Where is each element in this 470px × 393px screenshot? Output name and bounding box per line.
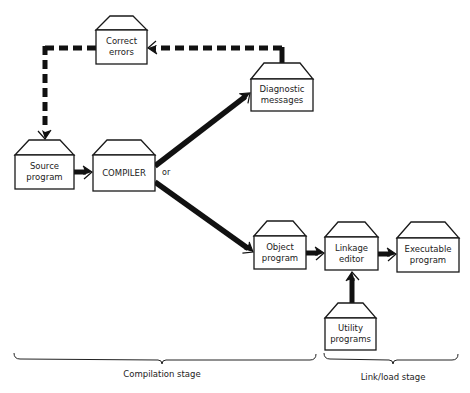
node-label-line: Executable bbox=[405, 244, 452, 255]
compilation-diagram bbox=[0, 0, 470, 393]
node-label-line: editor bbox=[339, 254, 364, 265]
node-label-line: program bbox=[262, 253, 298, 264]
flow-arrow bbox=[155, 182, 248, 249]
node-label-line: Object bbox=[266, 242, 294, 253]
node-label-line: Linkage bbox=[335, 243, 368, 254]
node-roof bbox=[325, 303, 376, 318]
node-label-line: errors bbox=[109, 47, 134, 58]
node-label-utility: Utilityprograms bbox=[325, 318, 376, 350]
nodes bbox=[15, 16, 459, 350]
node-roof bbox=[93, 140, 155, 155]
node-label-linkage: Linkageeditor bbox=[325, 237, 378, 270]
node-roof bbox=[397, 222, 459, 238]
stage-label: Compilation stage bbox=[102, 369, 222, 379]
arrowhead-icon bbox=[38, 130, 51, 139]
node-label-line: Diagnostic bbox=[260, 84, 305, 95]
node-label-line: programs bbox=[330, 334, 371, 345]
node-roof bbox=[15, 140, 74, 155]
node-label-line: program bbox=[410, 255, 446, 266]
node-label-correct: Correcterrors bbox=[96, 30, 147, 64]
stage-brace bbox=[14, 353, 316, 364]
node-roof bbox=[325, 222, 378, 237]
node-label-line: messages bbox=[261, 95, 304, 106]
stage-braces bbox=[14, 353, 458, 364]
node-label-line: program bbox=[26, 172, 62, 183]
node-roof bbox=[251, 63, 313, 79]
node-label-line: Correct bbox=[106, 36, 137, 47]
node-label-line: COMPILER bbox=[102, 168, 146, 179]
node-roof bbox=[254, 221, 306, 236]
node-label-line: Source bbox=[30, 161, 59, 172]
node-label-diagnostic: Diagnosticmessages bbox=[251, 79, 313, 111]
node-label-object: Objectprogram bbox=[254, 236, 306, 269]
stage-brace bbox=[324, 353, 458, 364]
node-label-source: Sourceprogram bbox=[15, 155, 74, 189]
node-label-compiler: COMPILER bbox=[93, 155, 155, 191]
or-label: or bbox=[162, 168, 170, 177]
node-label-executable: Executableprogram bbox=[397, 238, 459, 272]
node-roof bbox=[96, 16, 147, 30]
stage-label: Link/load stage bbox=[333, 372, 453, 382]
flow-arrow bbox=[155, 97, 245, 166]
node-label-line: Utility bbox=[338, 323, 363, 334]
